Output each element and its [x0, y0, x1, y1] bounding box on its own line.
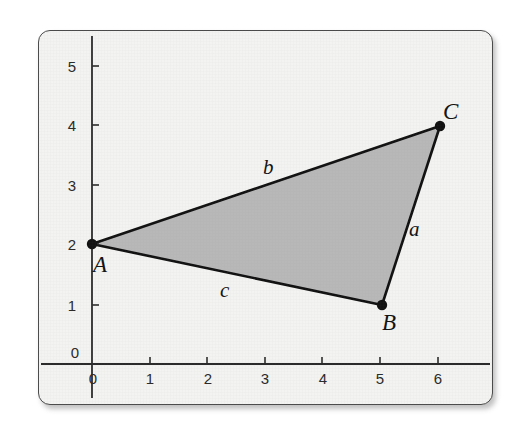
side-label-c: c [220, 280, 229, 301]
y-tick-label-5: 5 [62, 59, 82, 74]
vertex-label-C: C [443, 100, 458, 123]
side-label-b: b [263, 157, 274, 178]
x-tick-label-5: 5 [370, 371, 390, 386]
x-tick-label-2: 2 [198, 371, 218, 386]
vertex-label-B: B [382, 311, 396, 334]
x-tick-label-1: 1 [140, 371, 160, 386]
x-tick-label-6: 6 [428, 371, 448, 386]
x-tick-label-4: 4 [313, 371, 333, 386]
vertex-point-A [87, 239, 97, 249]
y-tick-label-2: 2 [62, 237, 82, 252]
figure-root: 5 4 3 2 1 0 0 1 2 3 4 5 6 A B C a b c [0, 0, 525, 423]
y-tick-label-0: 0 [65, 345, 85, 360]
y-tick-label-3: 3 [62, 178, 82, 193]
y-tick-label-4: 4 [62, 118, 82, 133]
vertex-point-B [377, 300, 387, 310]
triangle-shape [92, 126, 440, 305]
side-label-a: a [409, 219, 420, 240]
x-tick-label-3: 3 [255, 371, 275, 386]
vertex-label-A: A [93, 253, 107, 276]
y-tick-label-1: 1 [62, 298, 82, 313]
x-axis-ticks [150, 357, 438, 364]
x-tick-label-0: 0 [83, 371, 103, 386]
